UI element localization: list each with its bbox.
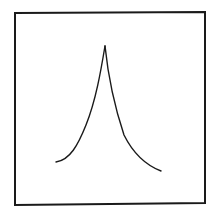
sketch-svg: [0, 0, 215, 215]
square-frame: [15, 12, 205, 205]
cusp-curve-right: [105, 46, 161, 171]
cusp-curve-left: [56, 46, 105, 162]
drawing-canvas: [0, 0, 215, 215]
